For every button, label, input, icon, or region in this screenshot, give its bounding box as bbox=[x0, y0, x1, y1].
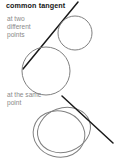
figure-title: common tangent bbox=[6, 1, 65, 10]
caption-line: points bbox=[7, 31, 31, 39]
common-tangent-figure: common tangent at two different points a… bbox=[0, 0, 118, 160]
tangent-line-same-point bbox=[62, 96, 113, 143]
panel-two-different-points bbox=[22, 2, 92, 95]
large-circle bbox=[22, 47, 70, 95]
tangent-line-two-points bbox=[23, 2, 78, 69]
small-circle bbox=[58, 16, 92, 50]
caption-line: point bbox=[7, 99, 41, 107]
caption-at-the-same-point: at the same point bbox=[7, 91, 41, 107]
caption-line: at two bbox=[7, 15, 31, 23]
caption-at-two-different-points: at two different points bbox=[7, 15, 31, 38]
caption-line: at the same bbox=[7, 91, 41, 99]
upper-circle bbox=[31, 100, 97, 160]
caption-line: different bbox=[7, 23, 31, 31]
